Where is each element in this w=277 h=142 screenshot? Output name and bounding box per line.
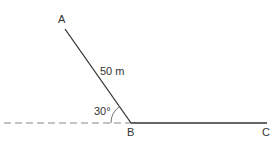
geometry-diagram: A B C 50 m 30° (0, 0, 277, 142)
angle-label: 30° (94, 105, 111, 117)
angle-arc (111, 107, 120, 123)
label-b: B (127, 126, 134, 138)
length-label-ab: 50 m (100, 65, 124, 77)
label-c: C (262, 126, 270, 138)
label-a: A (58, 13, 66, 25)
